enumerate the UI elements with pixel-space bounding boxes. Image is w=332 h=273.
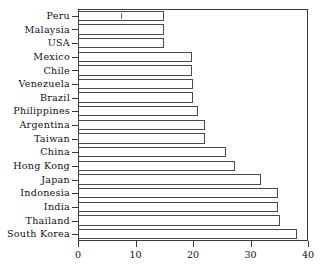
- x-axis-tick: [251, 241, 252, 247]
- y-axis-tick: [72, 125, 78, 126]
- x-axis-tick-label: 40: [295, 249, 321, 260]
- bar-row: [78, 159, 308, 173]
- y-axis-tick: [72, 111, 78, 112]
- y-axis-tick: [72, 234, 78, 235]
- y-axis-label: Argentina: [0, 118, 70, 132]
- bar-row: [78, 104, 308, 118]
- y-axis-tick: [72, 70, 78, 71]
- y-axis-tick: [72, 16, 78, 17]
- bar-row: [78, 173, 308, 187]
- bar-row: [78, 145, 308, 159]
- y-axis-label: Peru: [0, 9, 70, 23]
- y-axis-label: Philippines: [0, 104, 70, 118]
- bar[interactable]: [78, 92, 193, 102]
- bar[interactable]: [78, 215, 280, 225]
- bar-row: [78, 200, 308, 214]
- y-axis-tick: [72, 180, 78, 181]
- x-axis-tick-label: 0: [65, 249, 91, 260]
- x-axis-tick: [193, 241, 194, 247]
- y-axis-tick: [72, 152, 78, 153]
- bar-row: [78, 91, 308, 105]
- peru-tick-mark: [121, 13, 122, 19]
- bar[interactable]: [78, 65, 192, 75]
- y-axis-tick: [72, 57, 78, 58]
- bar-row: [78, 36, 308, 50]
- y-axis-label: Taiwan: [0, 132, 70, 146]
- y-axis-tick: [72, 98, 78, 99]
- y-axis-tick: [72, 166, 78, 167]
- y-axis-tick: [72, 221, 78, 222]
- bar-row: [78, 77, 308, 91]
- y-axis-tick: [72, 139, 78, 140]
- x-axis-tick: [308, 241, 309, 247]
- y-axis-label: Thailand: [0, 214, 70, 228]
- bar[interactable]: [78, 202, 278, 212]
- bar[interactable]: [78, 52, 192, 62]
- y-axis-label: Indonesia: [0, 186, 70, 200]
- bar-row: [78, 227, 308, 241]
- y-axis-tick: [72, 84, 78, 85]
- bar[interactable]: [78, 174, 261, 184]
- y-axis-label: Chile: [0, 64, 70, 78]
- x-axis-tick: [136, 241, 137, 247]
- y-axis-tick: [72, 193, 78, 194]
- y-axis-label: USA: [0, 36, 70, 50]
- bar[interactable]: [78, 188, 278, 198]
- bar[interactable]: [78, 147, 226, 157]
- x-axis-tick-label: 20: [180, 249, 206, 260]
- y-axis-label: South Korea: [0, 227, 70, 241]
- y-axis-tick: [72, 207, 78, 208]
- bar-row: [78, 50, 308, 64]
- bar[interactable]: [78, 229, 297, 239]
- bar[interactable]: [78, 106, 198, 116]
- bar-row: [78, 64, 308, 78]
- bar-row: [78, 214, 308, 228]
- bar[interactable]: [78, 133, 205, 143]
- bar[interactable]: [78, 24, 164, 34]
- bar-row: [78, 9, 308, 23]
- bar[interactable]: [78, 161, 235, 171]
- bars-container: [78, 9, 308, 241]
- bar-row: [78, 132, 308, 146]
- y-axis-label: Venezuela: [0, 77, 70, 91]
- x-axis-tick-label: 10: [123, 249, 149, 260]
- y-axis-label: India: [0, 200, 70, 214]
- x-axis-tick: [78, 241, 79, 247]
- bar-row: [78, 118, 308, 132]
- y-axis-tick: [72, 29, 78, 30]
- bar-row: [78, 186, 308, 200]
- y-axis-label: Malaysia: [0, 23, 70, 37]
- bar[interactable]: [78, 120, 205, 130]
- y-axis-label: Hong Kong: [0, 159, 70, 173]
- x-axis-tick-label: 30: [238, 249, 264, 260]
- bar[interactable]: [78, 79, 193, 89]
- bar-chart: PeruMalaysiaUSAMexicoChileVenezuelaBrazi…: [0, 0, 332, 273]
- bar[interactable]: [78, 38, 164, 48]
- y-axis-labels: PeruMalaysiaUSAMexicoChileVenezuelaBrazi…: [0, 9, 70, 241]
- y-axis-label: Brazil: [0, 91, 70, 105]
- y-axis-label: Japan: [0, 173, 70, 187]
- y-axis-tick: [72, 43, 78, 44]
- bar-row: [78, 23, 308, 37]
- y-axis-label: China: [0, 145, 70, 159]
- y-axis-label: Mexico: [0, 50, 70, 64]
